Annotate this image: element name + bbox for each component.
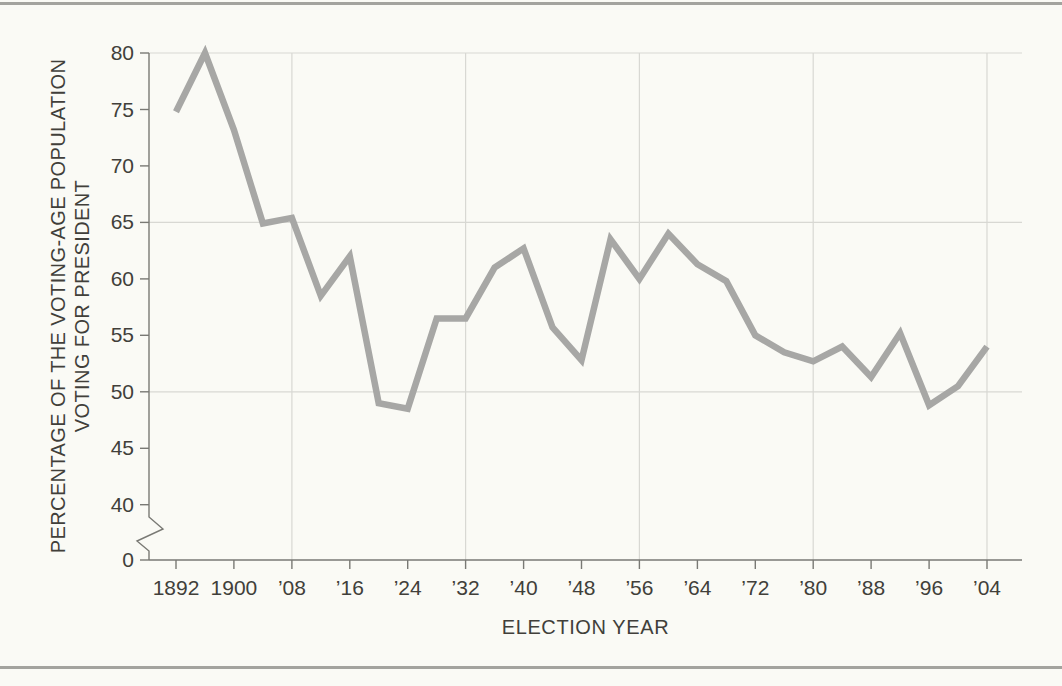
- x-tick-label: ’48: [567, 576, 595, 599]
- turnout-line-chart: 807570656055504540018921900’08’16’24’32’…: [0, 0, 1062, 686]
- y-tick-label: 45: [111, 436, 134, 459]
- x-tick-label: ’40: [510, 576, 538, 599]
- x-tick-label: ’04: [973, 576, 1001, 599]
- x-tick-label: ’32: [452, 576, 480, 599]
- x-tick-label: ’24: [394, 576, 422, 599]
- x-tick-label: ’96: [915, 576, 943, 599]
- y-tick-label: 0: [122, 548, 134, 571]
- y-tick-label: 60: [111, 267, 134, 290]
- y-tick-label: 55: [111, 323, 134, 346]
- x-tick-label: 1900: [211, 576, 258, 599]
- y-tick-label: 80: [111, 41, 134, 64]
- x-axis-title: ELECTION YEAR: [149, 616, 1022, 639]
- x-tick-label: ’16: [336, 576, 364, 599]
- y-axis-line: [137, 53, 163, 560]
- y-tick-label: 50: [111, 380, 134, 403]
- y-tick-label: 65: [111, 210, 134, 233]
- y-tick-label: 75: [111, 98, 134, 121]
- y-tick-label: 70: [111, 154, 134, 177]
- turnout-line: [176, 53, 987, 409]
- x-tick-label: ’64: [683, 576, 711, 599]
- figure-page: PERCENTAGE OF THE VOTING-AGE POPULATION …: [0, 0, 1062, 686]
- y-tick-label: 40: [111, 493, 134, 516]
- x-tick-label: ’72: [741, 576, 769, 599]
- x-tick-label: ’80: [799, 576, 827, 599]
- x-tick-label: ’56: [625, 576, 653, 599]
- x-tick-label: ’88: [857, 576, 885, 599]
- x-tick-label: ’08: [278, 576, 306, 599]
- x-tick-label: 1892: [153, 576, 200, 599]
